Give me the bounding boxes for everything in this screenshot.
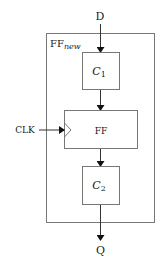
output-q-label: Q: [96, 244, 105, 257]
input-clk-label: CLK: [15, 125, 35, 135]
container-label: FFnew: [50, 38, 81, 51]
input-d-label: D: [96, 10, 105, 23]
ff-new-diagram: FFnew D C1 FF CLK C2 Q: [0, 0, 164, 265]
ff-label: FF: [95, 126, 108, 136]
